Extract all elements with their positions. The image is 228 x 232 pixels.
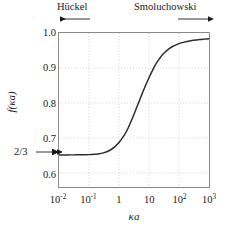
y-tick-1.0: 1.0 [43, 27, 56, 38]
plot-area [58, 32, 210, 188]
x-tick-1: 1 [116, 194, 121, 206]
x-tick-1e-1: 10-1 [80, 194, 97, 206]
henry-function-figure: Hückel Smoluchowski [0, 0, 228, 232]
x-tick-1e2: 102 [173, 194, 187, 206]
x-tick-mantissa: 1 [116, 194, 121, 205]
x-tick-mantissa: 10 [202, 194, 213, 205]
x-tick-10: 10 [144, 194, 155, 206]
x-tick-1e3: 103 [202, 194, 216, 206]
x-tick-exponent: 3 [212, 193, 216, 201]
x-tick-1e-2: 10-2 [50, 194, 67, 206]
huckel-region-label: Hückel [57, 1, 87, 13]
x-tick-exponent: -1 [91, 193, 97, 201]
x-tick-mantissa: 10 [173, 194, 184, 205]
two-thirds-label: 2/3 [14, 146, 27, 158]
y-tick-0.9: 0.9 [43, 62, 56, 73]
x-tick-mantissa: 10 [50, 194, 61, 205]
x-axis-label: κa [58, 210, 210, 222]
y-tick-0.6: 0.6 [43, 169, 56, 180]
y-tick-0.8: 0.8 [43, 98, 56, 109]
y-tick-0.7: 0.7 [43, 133, 56, 144]
two-thirds-arrow [34, 144, 62, 160]
x-tick-exponent: 2 [183, 193, 187, 201]
x-tick-exponent: -2 [60, 193, 66, 201]
henry-function-curve [59, 33, 209, 187]
x-axis-ticklabels: 10-2 10-1 1 10 102 103 [0, 194, 228, 210]
smoluchowski-region-label: Smoluchowski [134, 1, 196, 13]
x-tick-mantissa: 10 [144, 194, 155, 205]
x-tick-mantissa: 10 [80, 194, 91, 205]
y-axis-label: f(κa) [5, 74, 17, 130]
